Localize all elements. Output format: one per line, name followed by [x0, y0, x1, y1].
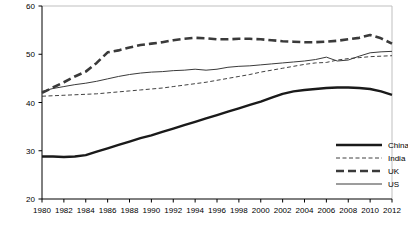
x-axis-ticks [42, 199, 392, 203]
legend-label-india: India [388, 154, 406, 163]
x-tick-label: 2012 [383, 206, 401, 215]
y-tick-label: 60 [26, 2, 35, 11]
x-tick-label: 2010 [361, 206, 379, 215]
x-tick-label: 1994 [186, 206, 204, 215]
chart-canvas: 2030405060 19801982198419861988199019921… [0, 0, 408, 226]
x-tick-label: 1998 [230, 206, 248, 215]
y-tick-label: 40 [26, 99, 35, 108]
x-tick-label: 1984 [77, 206, 95, 215]
x-tick-label: 1982 [55, 206, 73, 215]
x-tick-label: 1990 [142, 206, 160, 215]
line-chart: 2030405060 19801982198419861988199019921… [0, 0, 408, 226]
y-tick-label: 30 [26, 147, 35, 156]
y-axis-ticks [39, 6, 43, 199]
y-tick-label: 20 [26, 195, 35, 204]
x-tick-label: 2004 [296, 206, 314, 215]
x-tick-label: 1986 [99, 206, 117, 215]
x-tick-label: 1988 [121, 206, 139, 215]
legend-label-uk: UK [388, 167, 400, 176]
x-tick-label: 2002 [274, 206, 292, 215]
x-tick-label: 2000 [252, 206, 270, 215]
x-tick-label: 2008 [339, 206, 357, 215]
x-axis-tick-labels: 1980198219841986198819901992199419961998… [33, 206, 401, 215]
x-tick-label: 1992 [164, 206, 182, 215]
legend-label-china: China [388, 141, 408, 150]
x-tick-label: 1996 [208, 206, 226, 215]
y-tick-label: 50 [26, 50, 35, 59]
legend-label-us: US [388, 180, 399, 189]
x-tick-label: 1980 [33, 206, 51, 215]
y-axis-tick-labels: 2030405060 [26, 2, 35, 204]
x-tick-label: 2006 [317, 206, 335, 215]
